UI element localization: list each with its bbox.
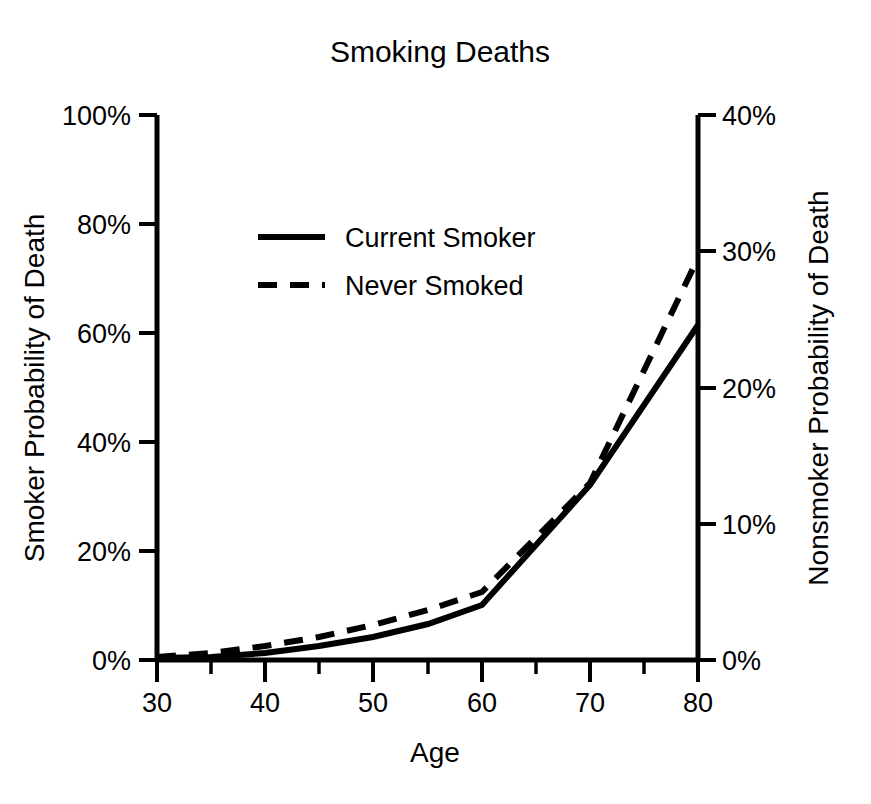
right-ticklabel-0: 0% [722, 646, 761, 676]
right-ticklabel-30: 30% [722, 237, 776, 267]
chart-svg: Smoking Deaths 0% 20% 40% 60% 80% 100% [0, 0, 871, 804]
chart-legend: Current Smoker Never Smoked [258, 223, 536, 301]
right-ticklabel-10: 10% [722, 510, 776, 540]
legend-label-never-smoked: Never Smoked [345, 271, 524, 301]
right-ticklabel-40: 40% [722, 101, 776, 131]
x-axis-ticks [157, 660, 698, 682]
x-ticklabel-40: 40 [250, 688, 280, 718]
left-ticklabel-80: 80% [77, 210, 131, 240]
left-ticklabel-0: 0% [92, 646, 131, 676]
x-ticklabel-80: 80 [683, 688, 713, 718]
series-current-smoker-line [157, 325, 698, 658]
legend-item-never-smoked: Never Smoked [258, 271, 524, 301]
left-ticklabel-60: 60% [77, 319, 131, 349]
x-axis-title: Age [410, 737, 460, 768]
chart-title: Smoking Deaths [330, 35, 550, 68]
legend-item-current-smoker: Current Smoker [258, 223, 536, 253]
left-ticklabel-100: 100% [62, 101, 131, 131]
left-ticklabel-20: 20% [77, 537, 131, 567]
x-ticklabel-60: 60 [467, 688, 497, 718]
legend-label-current-smoker: Current Smoker [345, 223, 536, 253]
series-never-smoked-line [157, 258, 698, 657]
chart-figure: Smoking Deaths 0% 20% 40% 60% 80% 100% [0, 0, 871, 804]
left-axis-ticks [139, 115, 157, 660]
left-axis-ticklabels: 0% 20% 40% 60% 80% 100% [62, 101, 131, 676]
right-ticklabel-20: 20% [722, 374, 776, 404]
right-axis-ticks [698, 115, 716, 660]
x-ticklabel-70: 70 [575, 688, 605, 718]
x-ticklabel-50: 50 [358, 688, 388, 718]
right-axis-title: Nonsmoker Probability of Death [803, 190, 834, 585]
left-ticklabel-40: 40% [77, 428, 131, 458]
left-axis-title: Smoker Probability of Death [19, 214, 50, 563]
x-ticklabel-30: 30 [142, 688, 172, 718]
right-axis-ticklabels: 0% 10% 20% 30% 40% [722, 101, 776, 676]
x-axis-ticklabels: 30 40 50 60 70 80 [142, 688, 713, 718]
